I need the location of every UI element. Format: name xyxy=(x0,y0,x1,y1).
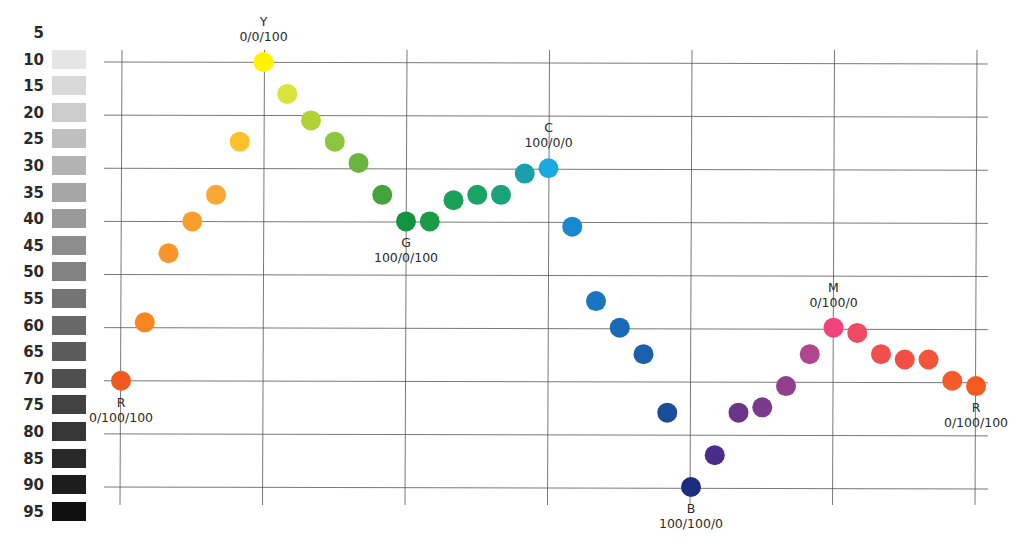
data-point xyxy=(230,132,250,152)
data-point xyxy=(349,153,369,173)
annotation-b: B100/100/0 xyxy=(659,501,723,531)
data-point xyxy=(752,397,772,417)
annotation-name: R xyxy=(89,395,153,410)
data-point xyxy=(182,211,202,231)
horizontal-gridline xyxy=(104,275,988,277)
vertical-gridline xyxy=(120,50,122,505)
data-point xyxy=(895,350,915,370)
data-point xyxy=(657,403,677,423)
annotation-name: C xyxy=(524,120,572,135)
data-point xyxy=(515,164,535,184)
data-point xyxy=(919,350,939,370)
horizontal-gridline xyxy=(104,434,988,436)
annotation-cmy: 0/100/0 xyxy=(809,295,857,310)
data-point xyxy=(942,371,962,391)
data-point xyxy=(634,344,654,364)
data-point xyxy=(847,323,867,343)
annotation-r: R0/100/100 xyxy=(89,395,153,425)
annotation-cmy: 0/0/100 xyxy=(239,29,287,44)
horizontal-gridline xyxy=(104,221,988,223)
annotation-name: Y xyxy=(239,14,287,29)
data-point xyxy=(491,185,511,205)
annotation-cmy: 100/0/100 xyxy=(374,250,438,265)
data-point xyxy=(206,185,226,205)
plot-area xyxy=(0,0,1025,550)
data-point xyxy=(467,185,487,205)
data-point xyxy=(396,211,416,231)
annotation-r: R0/100/100 xyxy=(944,400,1008,430)
data-point xyxy=(681,477,701,497)
data-point xyxy=(705,445,725,465)
data-point xyxy=(420,211,440,231)
annotation-y: Y0/0/100 xyxy=(239,14,287,44)
data-point xyxy=(135,312,155,332)
data-point xyxy=(539,158,559,178)
annotation-name: M xyxy=(809,280,857,295)
data-point xyxy=(301,110,321,130)
grid-lines xyxy=(104,50,988,505)
vertical-gridline xyxy=(975,50,977,505)
horizontal-gridline xyxy=(104,381,988,383)
data-point xyxy=(610,318,630,338)
annotation-cmy: 100/0/0 xyxy=(524,135,572,150)
vertical-gridline xyxy=(833,50,835,505)
annotation-c: C100/0/0 xyxy=(524,120,572,150)
horizontal-gridline xyxy=(104,62,988,64)
data-point xyxy=(729,403,749,423)
vertical-gridline xyxy=(548,50,550,505)
data-point xyxy=(871,344,891,364)
data-point xyxy=(776,376,796,396)
data-point xyxy=(277,84,297,104)
annotation-name: G xyxy=(374,235,438,250)
horizontal-gridline xyxy=(104,115,988,117)
data-point xyxy=(586,291,606,311)
data-point xyxy=(966,376,986,396)
annotation-name: B xyxy=(659,501,723,516)
annotation-g: G100/0/100 xyxy=(374,235,438,265)
annotation-cmy: 0/100/100 xyxy=(944,415,1008,430)
data-point xyxy=(444,190,464,210)
annotation-m: M0/100/0 xyxy=(809,280,857,310)
annotation-cmy: 100/100/0 xyxy=(659,516,723,531)
data-point xyxy=(562,217,582,237)
vertical-gridline xyxy=(405,50,407,505)
data-point xyxy=(159,243,179,263)
vertical-gridline xyxy=(690,50,692,505)
data-point xyxy=(111,371,131,391)
horizontal-gridline xyxy=(104,487,988,489)
data-point xyxy=(824,318,844,338)
data-point xyxy=(254,52,274,72)
vertical-gridline xyxy=(263,50,265,505)
data-point xyxy=(372,185,392,205)
data-point xyxy=(800,344,820,364)
annotation-name: R xyxy=(944,400,1008,415)
data-point xyxy=(325,132,345,152)
annotation-cmy: 0/100/100 xyxy=(89,410,153,425)
